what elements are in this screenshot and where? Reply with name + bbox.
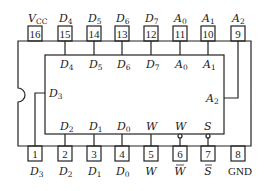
pin-1-label: D3 [29,165,44,179]
pin-8-label: GND [228,165,252,177]
inversion-bubble-pin-6 [178,134,182,138]
pin-2-number: 2 [62,148,68,160]
pin-2-label: D2 [58,165,73,179]
inversion-bubble-pin-7 [206,134,210,138]
pin-10-label: A1 [201,12,215,26]
pin-11-label: A0 [173,12,187,26]
pin-5-number: 5 [148,148,154,160]
pin-8-number: 8 [235,148,241,160]
inner-label-w: W [146,120,159,133]
pin-12-label: D7 [144,12,159,26]
pin-16-label: VCC [28,12,48,26]
pin-15-label: D4 [58,12,73,26]
pin-9-number: 9 [235,28,241,40]
pin-14-label: D5 [87,12,102,26]
pin-9-label: A2 [231,12,245,26]
pin-14-number: 14 [89,28,101,40]
pin-4-number: 4 [119,148,125,160]
pin-13-label: D6 [115,12,130,26]
pin-10-number: 10 [203,28,215,40]
pin-5-label: W [145,165,158,178]
pin-6-number: 6 [177,148,183,160]
pin-12-number: 12 [146,28,157,40]
inner-label-w-bar: W [175,120,188,133]
inner-label-s-bar: S [204,120,212,133]
pin-15-number: 15 [60,28,72,40]
pin-4-label: D0 [115,165,130,179]
pin-6-label: W [174,165,187,178]
pin-3-label: D1 [87,165,102,179]
pin-1-number: 1 [32,148,38,160]
pin-16-number: 16 [30,28,42,40]
pin-7-number: 7 [205,148,211,160]
ic-pinout-diagram: VCC D4 D5 D6 D7 A0 A1 A2 16 15 14 13 12 … [0,0,269,191]
pin-11-number: 11 [175,28,186,40]
pin-3-number: 3 [91,148,97,160]
pin-7-label: S [204,165,212,178]
pin-13-number: 13 [117,28,129,40]
